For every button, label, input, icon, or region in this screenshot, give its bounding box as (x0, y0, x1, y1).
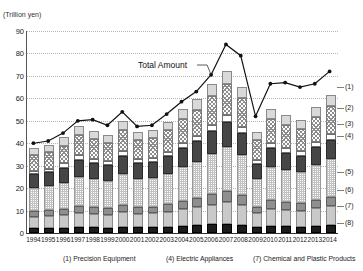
bar-segment (222, 115, 232, 122)
bar-segment (311, 107, 321, 117)
bar-segment (237, 87, 247, 98)
bar-segment (59, 146, 69, 164)
series-callout-leader (337, 190, 344, 191)
bar-segment (44, 186, 54, 210)
bar-segment (296, 120, 306, 129)
bar-segment (296, 156, 306, 172)
bar-segment (29, 148, 39, 155)
bar-segment (103, 228, 113, 233)
bar-segment (326, 206, 336, 225)
total-amount-annotation: Total Amount (138, 60, 187, 70)
bar-segment (326, 159, 336, 197)
bar-column[interactable] (59, 137, 69, 233)
bar-column[interactable] (74, 126, 84, 233)
y-axis-tick-label: 40 (4, 139, 24, 148)
bar-segment (178, 226, 188, 233)
bar-segment (74, 213, 84, 227)
bar-segment (118, 205, 128, 213)
bar-segment (237, 133, 247, 155)
bar-segment (252, 213, 262, 227)
bar-segment (89, 214, 99, 227)
bar-column[interactable] (148, 130, 158, 233)
bar-column[interactable] (118, 121, 128, 233)
bar-segment (89, 139, 99, 159)
bar-segment (148, 138, 158, 158)
bar-column[interactable] (326, 95, 336, 233)
bar-segment (148, 178, 158, 206)
bar-column[interactable] (311, 107, 321, 233)
bar-segment (29, 174, 39, 187)
bar-segment (222, 202, 232, 224)
bar-segment (207, 154, 217, 194)
series-callout-label: (2) (345, 104, 354, 111)
bar-segment (133, 227, 143, 233)
bar-segment (89, 227, 99, 233)
bar-segment (44, 172, 54, 186)
bar-segment (296, 203, 306, 211)
bar-segment (326, 197, 336, 206)
footer-legend-item: (1) Precision Equipment (63, 255, 136, 262)
bar-segment (266, 148, 276, 167)
bar-segment (222, 191, 232, 202)
bar-segment (59, 228, 69, 233)
footer-legend-item: (7) Chemical and Plastic Products (253, 255, 355, 262)
bar-segment (192, 141, 202, 161)
series-callout-leader (337, 172, 344, 173)
bar-segment (148, 162, 158, 178)
bar-column[interactable] (207, 84, 217, 233)
bar-column[interactable] (222, 71, 232, 233)
bar-segment (252, 132, 262, 141)
bar-column[interactable] (252, 132, 262, 233)
bar-column[interactable] (296, 120, 306, 233)
bar-column[interactable] (133, 132, 143, 233)
y-axis-tick-label: 0 (4, 229, 24, 238)
bar-segment (281, 153, 291, 170)
bar-segment (103, 181, 113, 208)
bar-segment (192, 99, 202, 110)
bar-segment (59, 183, 69, 209)
bar-column[interactable] (44, 145, 54, 233)
bar-segment (29, 188, 39, 212)
bar-segment (296, 211, 306, 226)
bar-segment (311, 226, 321, 233)
bar-column[interactable] (192, 99, 202, 233)
bar-segment (59, 215, 69, 228)
bar-segment (237, 225, 247, 233)
bar-segment (296, 172, 306, 203)
bar-segment (74, 135, 84, 156)
bar-segment (89, 207, 99, 214)
series-callout-label: (4) (345, 132, 354, 139)
bar-segment (103, 208, 113, 215)
bar-segment (311, 165, 321, 200)
bar-segment (266, 226, 276, 233)
bar-segment (222, 84, 232, 116)
series-callout-label: (1) (345, 83, 354, 90)
bar-segment (103, 143, 113, 162)
y-axis-unit-label: (Trillion yen) (3, 11, 41, 18)
y-axis-tick-label: 60 (4, 94, 24, 103)
bar-segment (192, 207, 202, 225)
bar-column[interactable] (281, 115, 291, 233)
bar-segment (192, 198, 202, 207)
bar-segment (178, 119, 188, 143)
y-axis-tick-label: 90 (4, 27, 24, 36)
bar-column[interactable] (29, 148, 39, 233)
bar-column[interactable] (178, 109, 188, 233)
bar-column[interactable] (237, 87, 247, 233)
bar-segment (163, 156, 173, 174)
bar-column[interactable] (266, 109, 276, 233)
bar-column[interactable] (103, 135, 113, 233)
bar-segment (311, 117, 321, 142)
bar-column[interactable] (163, 122, 173, 234)
bar-segment (133, 207, 143, 214)
bar-segment (118, 130, 128, 151)
series-callout-leader (337, 87, 344, 88)
bar-segment (103, 215, 113, 228)
bar-segment (311, 200, 321, 209)
bar-segment (59, 168, 69, 183)
bar-column[interactable] (89, 131, 99, 233)
bar-segment (252, 227, 262, 233)
bar-segment (133, 179, 143, 207)
bar-segment (163, 204, 173, 212)
y-axis-tick-label: 80 (4, 49, 24, 58)
